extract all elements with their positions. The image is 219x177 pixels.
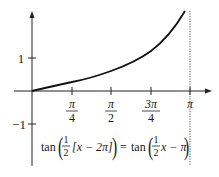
svg-text:=: =: [120, 140, 127, 154]
svg-text:(: (: [148, 132, 153, 161]
y-tick-label: −1: [12, 117, 26, 132]
y-tick-label: 1: [18, 51, 25, 66]
svg-text:2: 2: [154, 147, 159, 158]
x-tick-label-pi: π: [187, 97, 194, 111]
svg-text:2: 2: [108, 111, 114, 125]
svg-text:): ): [112, 132, 117, 161]
x-axis-arrow-icon: [205, 89, 212, 94]
svg-text:2: 2: [64, 147, 69, 158]
svg-text:tan: tan: [41, 140, 56, 154]
svg-text:π: π: [108, 97, 115, 111]
y-axis-arrow-icon: [30, 11, 35, 18]
svg-text:(: (: [58, 132, 63, 161]
svg-text:[x − 2π]: [x − 2π]: [72, 140, 113, 154]
svg-text:4: 4: [148, 111, 154, 125]
svg-text:π: π: [69, 97, 76, 111]
svg-text:1: 1: [64, 134, 69, 145]
svg-text:3π: 3π: [144, 97, 158, 111]
svg-text:π: π: [187, 97, 194, 111]
x-tick-label-pi-4: π 4: [66, 97, 78, 125]
equation-annotation: tan ( 1 2 [x − 2π] ) = tan ( 1 2 x − π ): [41, 132, 189, 161]
x-tick-label-pi-2: π 2: [105, 97, 117, 125]
svg-text:1: 1: [154, 134, 159, 145]
curve-series: [32, 11, 185, 91]
svg-text:4: 4: [69, 111, 75, 125]
svg-text:x − π: x − π: [160, 140, 187, 154]
chart: 1 −1 π 4 π 2 3π 4 π tan ( 1 2 [x − 2π] )…: [0, 0, 219, 177]
svg-text:tan: tan: [131, 140, 146, 154]
svg-text:): ): [184, 132, 189, 161]
x-tick-label-3pi-4: 3π 4: [142, 97, 160, 125]
